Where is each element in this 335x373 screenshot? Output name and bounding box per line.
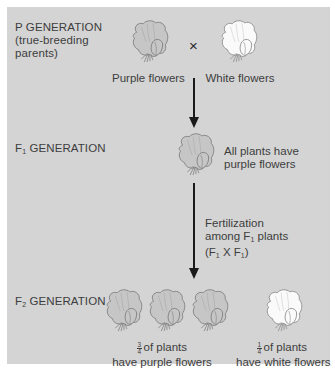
purple-flower-icon <box>144 287 188 333</box>
f1-caption: All plants have purple flowers <box>224 145 299 171</box>
white-ratio-caption: 14of plants have white flowers <box>236 341 328 369</box>
purple-flower-icon <box>173 131 217 177</box>
white-parent-caption: White flowers <box>205 72 275 85</box>
arrow-down-icon <box>189 78 199 128</box>
p-generation-title: P GENERATION <box>15 21 102 34</box>
purple-parent-caption: Purple flowers <box>112 72 184 85</box>
arrow-down-icon <box>189 183 199 279</box>
purple-flower-icon <box>101 287 145 333</box>
purple-flower-icon <box>187 287 231 333</box>
fertilization-caption: Fertilization among F1 plants (F1 X F1) <box>205 217 288 262</box>
p-generation-subtitle-2: parents) <box>15 47 102 60</box>
fraction-three-quarters: 34 <box>137 342 142 356</box>
p-generation-subtitle: (true-breeding <box>15 34 102 47</box>
purple-flower-icon <box>127 18 171 64</box>
white-flower-icon <box>216 18 260 64</box>
p-generation-label: P GENERATION (true-breeding parents) <box>15 21 102 60</box>
fraction-one-quarter: 14 <box>257 342 262 356</box>
f1-generation-label: F1 GENERATION <box>15 142 106 158</box>
f2-generation-label: F2 GENERATION <box>15 295 106 311</box>
cross-symbol: × <box>189 38 198 53</box>
white-flower-icon <box>261 287 305 333</box>
purple-ratio-caption: 34of plants have purple flowers <box>112 341 212 369</box>
